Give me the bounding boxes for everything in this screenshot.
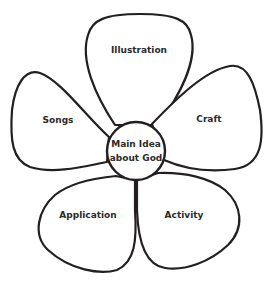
petal-application [39, 176, 136, 272]
flower-diagram: Illustration Songs Craft Application Act… [0, 0, 273, 285]
label-application: Application [59, 210, 116, 220]
label-illustration: Illustration [111, 45, 167, 55]
label-songs: Songs [43, 115, 74, 125]
label-craft: Craft [196, 114, 222, 124]
center-label-line2: about God [110, 153, 163, 163]
label-activity: Activity [165, 210, 204, 220]
center-label-line1: Main Idea [111, 139, 161, 149]
petal-activity [137, 173, 239, 269]
center-circle [107, 122, 165, 180]
